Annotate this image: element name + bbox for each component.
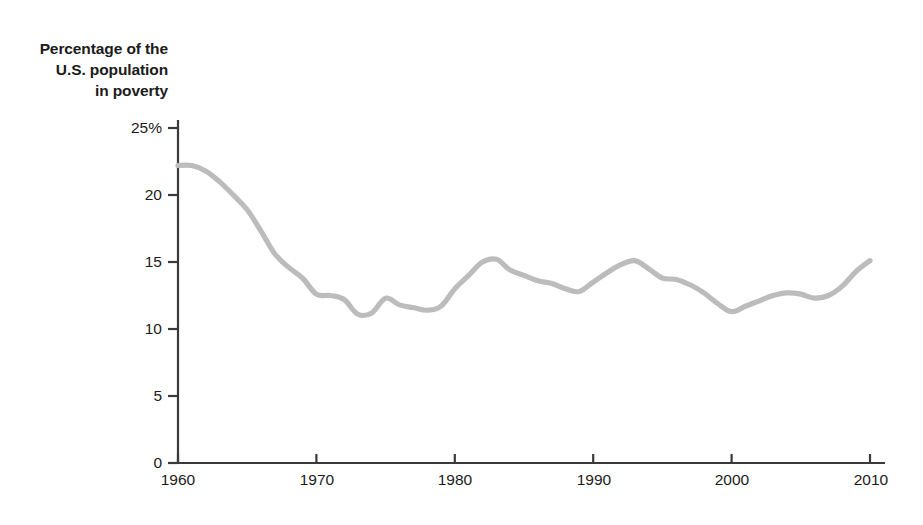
y-axis-ticks [168,128,178,463]
poverty-rate-line-chart: Percentage of the U.S. population in pov… [0,0,923,525]
x-axis-ticks [178,454,870,463]
poverty-rate-line [178,165,870,316]
chart-plot-area [0,0,923,525]
